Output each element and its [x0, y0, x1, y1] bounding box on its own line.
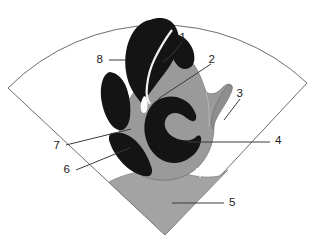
- label-8: 8: [97, 53, 103, 65]
- label-5: 5: [229, 196, 235, 208]
- label-1: 1: [180, 31, 186, 43]
- diagram-svg: 1 2 3 4 5 6 7 8: [0, 0, 330, 244]
- figure-container: 1 2 3 4 5 6 7 8: [0, 0, 330, 244]
- label-4: 4: [275, 134, 282, 146]
- label-6: 6: [64, 163, 70, 175]
- label-7: 7: [54, 139, 60, 151]
- dark-region-7: [101, 72, 131, 130]
- label-3: 3: [237, 87, 243, 99]
- label-2: 2: [209, 53, 215, 65]
